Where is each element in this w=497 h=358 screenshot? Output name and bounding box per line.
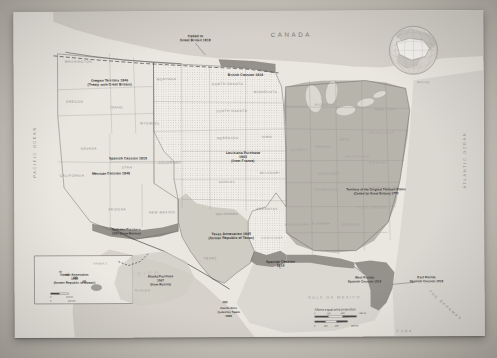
aging-wash — [13, 10, 484, 338]
map-canvas: CANADA MEXICO PACIFIC OCEAN ATLANTIC OCE… — [13, 10, 484, 338]
map-svg: CANADA MEXICO PACIFIC OCEAN ATLANTIC OCE… — [13, 10, 484, 338]
photo-backdrop: CANADA MEXICO PACIFIC OCEAN ATLANTIC OCE… — [0, 0, 497, 358]
map-sheet: CANADA MEXICO PACIFIC OCEAN ATLANTIC OCE… — [13, 10, 484, 338]
